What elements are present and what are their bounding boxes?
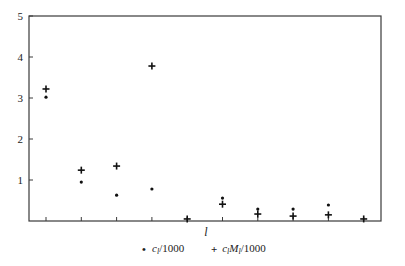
dot-marker (292, 208, 295, 211)
plus-marker (148, 63, 155, 70)
dot-marker (80, 180, 83, 183)
legend-item-clml: + clMl/1000 (210, 242, 266, 256)
dot-marker-icon: • (140, 243, 148, 255)
plus-marker (325, 211, 332, 218)
svg-text:2: 2 (18, 133, 24, 145)
svg-text:3: 3 (18, 92, 24, 104)
y-axis-ticks: 12345 (18, 10, 34, 186)
plus-marker (254, 211, 261, 218)
plus-marker (113, 163, 120, 170)
svg-text:5: 5 (18, 10, 24, 22)
legend-label-clml: clMl/1000 (222, 242, 266, 256)
plus-marker (43, 85, 50, 92)
plot-frame (29, 16, 381, 221)
dot-marker (256, 208, 259, 211)
scatter-chart: 12345 l (0, 0, 405, 266)
legend-label-cl: cl/1000 (152, 242, 184, 256)
plus-marker-icon: + (210, 243, 218, 255)
plus-marker (290, 213, 297, 220)
x-axis-ticks (46, 217, 364, 221)
legend-item-cl: • cl/1000 (140, 242, 184, 256)
dot-marker (221, 196, 224, 199)
dot-marker (44, 96, 47, 99)
svg-text:1: 1 (18, 174, 24, 186)
plus-marker (219, 201, 226, 208)
svg-text:4: 4 (18, 51, 24, 63)
legend: • cl/1000 + clMl/1000 (140, 242, 266, 256)
dot-marker (115, 194, 118, 197)
dot-marker (327, 203, 330, 206)
x-axis-label: l (204, 225, 208, 239)
data-points (43, 63, 368, 223)
plus-marker (78, 167, 85, 174)
dot-marker (150, 187, 153, 190)
